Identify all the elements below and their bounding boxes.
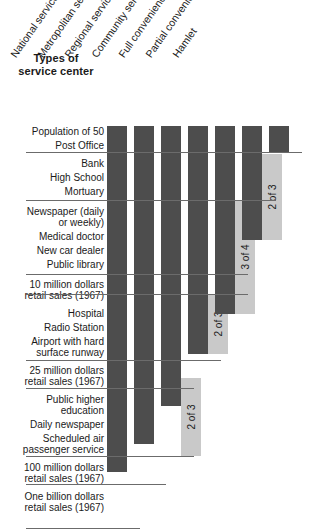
column-bar [242, 126, 262, 240]
tier-divider [26, 274, 248, 275]
column-bar [269, 126, 289, 152]
partial-availability-label: 2 of 3 [213, 311, 224, 336]
partial-availability-label: 3 of 4 [240, 244, 251, 269]
column-header-band: National service centerMetropolitan serv… [0, 0, 326, 126]
column-bar [107, 126, 127, 472]
tier-divider [26, 484, 166, 485]
row-label: One billion dollars [3, 491, 107, 502]
row-label: retail sales (1967) [3, 473, 107, 484]
tier-divider [26, 388, 194, 389]
row-label: retail sales (1967) [3, 502, 107, 513]
tier-divider [26, 152, 302, 153]
tier-divider [26, 294, 248, 295]
tier-divider [26, 360, 221, 361]
tier-divider [26, 200, 276, 201]
partial-availability-label: 2 of 3 [186, 404, 197, 429]
column-bar [215, 126, 235, 314]
column-bar [161, 126, 181, 406]
tier-divider [26, 456, 194, 457]
column-bar [134, 126, 154, 444]
partial-availability-label: 2 of 3 [267, 184, 278, 209]
column-bar [188, 126, 208, 354]
plot-area: 2 of 33 of 42 of 32 of 3 [0, 126, 326, 472]
